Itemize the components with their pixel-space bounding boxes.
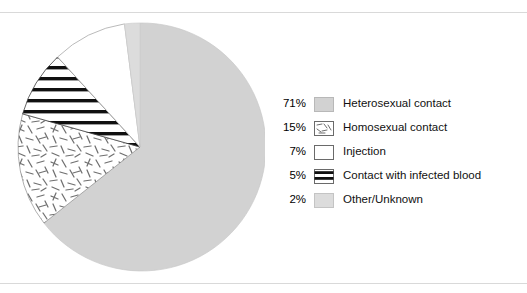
legend-item-heterosexual-contact[interactable]: 71% Heterosexual contact bbox=[276, 92, 521, 116]
pie-chart-svg bbox=[15, 22, 265, 272]
light-gray-swatch bbox=[314, 193, 334, 208]
legend-percent: 71% bbox=[276, 98, 306, 110]
solid-gray-swatch bbox=[314, 97, 334, 112]
white-swatch bbox=[314, 145, 334, 160]
legend-percent: 2% bbox=[276, 194, 306, 206]
top-divider bbox=[0, 12, 527, 13]
bottom-divider bbox=[0, 283, 527, 284]
legend-percent: 15% bbox=[276, 122, 306, 134]
chart-page: 71% Heterosexual contact 15% bbox=[0, 0, 527, 293]
legend-item-injection[interactable]: 7% Injection bbox=[276, 140, 521, 164]
legend-item-other-unknown[interactable]: 2% Other/Unknown bbox=[276, 188, 521, 212]
legend-item-homosexual-contact[interactable]: 15% Homosexual contact bbox=[276, 116, 521, 140]
legend-label: Contact with infected blood bbox=[343, 170, 481, 182]
legend-label: Injection bbox=[343, 146, 386, 158]
legend-percent: 7% bbox=[276, 146, 306, 158]
stripe-pattern-swatch bbox=[314, 169, 334, 184]
legend-label: Homosexual contact bbox=[343, 122, 447, 134]
legend-percent: 5% bbox=[276, 170, 306, 182]
dash-pattern-swatch bbox=[314, 121, 334, 136]
pie-chart bbox=[15, 22, 265, 272]
legend-item-contact-with-infected-blood[interactable]: 5% Contact with infected blood bbox=[276, 164, 521, 188]
chart-legend: 71% Heterosexual contact 15% bbox=[276, 92, 521, 212]
legend-label: Heterosexual contact bbox=[343, 98, 451, 110]
legend-label: Other/Unknown bbox=[343, 194, 423, 206]
